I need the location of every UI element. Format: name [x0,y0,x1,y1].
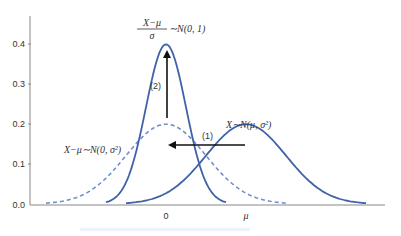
x-tick-label-zero: 0 [163,211,168,221]
y-ticks: 0.4 0.3 0.2 0.1 0.0 [12,39,31,210]
y-tick-label: 0.1 [12,159,25,169]
y-tick-label: 0.3 [12,79,25,89]
label-standardized-distribution: X−μ σ ∼N(0, 1) [137,17,206,41]
bottom-band [80,228,250,231]
y-tick-label: 0.2 [12,119,25,129]
curve-standard-normal [106,44,226,202]
label-centered-distribution: X−μ∼N(0, σ²) [63,144,122,156]
x-tick-label-mu: μ [242,210,248,221]
curve-centered-dashed [46,124,286,203]
curve-original [126,124,366,203]
svg-text:X−μ: X−μ [142,17,161,28]
svg-text:∼N(0, 1): ∼N(0, 1) [169,23,206,35]
normal-standardization-chart: 0.4 0.3 0.2 0.1 0.0 0 μ (1) (2) X∼N(μ, σ… [0,0,401,236]
step-1-label: (1) [202,131,213,141]
y-tick-label: 0.0 [12,200,25,210]
step-2-label: (2) [150,81,161,91]
y-tick-label: 0.4 [12,39,25,49]
svg-text:σ: σ [150,30,156,41]
label-original-distribution: X∼N(μ, σ²) [225,119,272,131]
